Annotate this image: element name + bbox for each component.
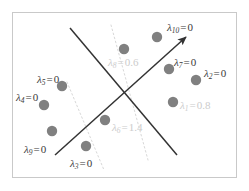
margin-lines-group <box>67 25 148 170</box>
line-axis-ascending-arrow <box>55 37 186 155</box>
data-point-p9 <box>47 126 57 136</box>
data-point-p4 <box>39 100 49 110</box>
label-p6: λ6=1.4 <box>112 122 142 135</box>
data-point-p10 <box>152 32 162 42</box>
label-p2: λ2=0 <box>204 68 226 81</box>
label-p8: λ8=0.6 <box>108 57 138 70</box>
data-point-p6 <box>100 115 110 125</box>
data-point-p8 <box>119 44 129 54</box>
label-p9: λ9=0 <box>24 144 46 157</box>
label-p4: λ4=0 <box>16 92 38 105</box>
data-point-p7 <box>164 64 174 74</box>
label-p1: λ1=0.8 <box>180 100 210 113</box>
label-p3: λ3=0 <box>70 158 92 171</box>
label-p5: λ5=0 <box>37 74 59 87</box>
data-point-p2 <box>191 75 201 85</box>
data-point-p3 <box>81 141 91 151</box>
label-p10: λ10=0 <box>167 22 193 35</box>
data-point-p1 <box>168 97 178 107</box>
line-margin-upper-dotted <box>111 25 148 160</box>
label-p7: λ7=0 <box>174 57 196 70</box>
svm-margin-figure: λ10=0λ8=0.6λ7=0λ2=0λ1=0.8λ5=0λ4=0λ9=0λ6=… <box>0 0 249 191</box>
